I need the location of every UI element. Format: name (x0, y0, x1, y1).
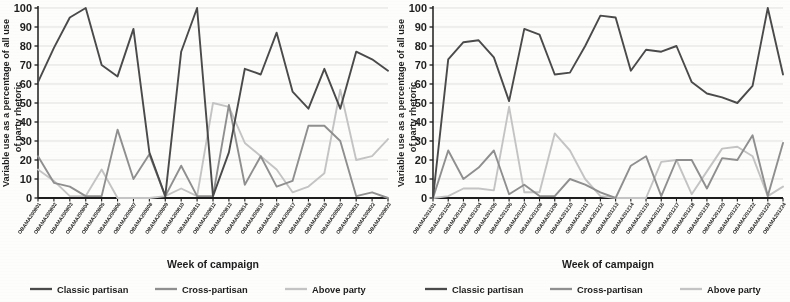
y-axis-tick-label: 0 (26, 192, 32, 204)
legend-label-classic-partisan: Classic partisan (452, 285, 524, 295)
y-axis-tick-label: 10 (20, 173, 32, 185)
chart-svg-right: 0102030405060708090100OBAMA201201OBAMA20… (395, 0, 790, 302)
legend-label-cross-partisan: Cross-partisan (577, 285, 643, 295)
legend-label-classic-partisan: Classic partisan (57, 285, 129, 295)
y-axis-tick-label: 70 (415, 59, 427, 71)
legend: Classic partisanCross-partisanAbove part… (30, 285, 367, 295)
y-axis-tick-label: 100 (14, 2, 32, 14)
y-axis-title-line-1: Variable use as a percentage of all use (1, 19, 11, 187)
y-axis-tick-label: 80 (415, 40, 427, 52)
chart-svg-left: 0102030405060708090100OBAMA200801OBAMA20… (0, 0, 395, 302)
y-axis-tick-label: 90 (20, 21, 32, 33)
y-axis-title-line-2: of party rhetoric (408, 82, 418, 152)
gridlines (38, 8, 388, 179)
y-axis-title-line-2: of party rhetoric (13, 82, 23, 152)
y-axis-tick-label: 20 (20, 154, 32, 166)
x-axis-tick-labels: OBAMA200801OBAMA200802OBAMA200803OBAMA20… (16, 201, 392, 235)
y-axis-tick-label: 90 (415, 21, 427, 33)
chart-panel-right: 0102030405060708090100OBAMA201201OBAMA20… (395, 0, 790, 302)
y-axis-tick-label: 0 (421, 192, 427, 204)
chart-panel-left: 0102030405060708090100OBAMA200801OBAMA20… (0, 0, 395, 302)
series-line-above-party (433, 107, 783, 198)
x-axis-title: Week of campaign (167, 258, 259, 270)
series-line-above-party (38, 90, 388, 198)
y-axis-tick-label: 70 (20, 59, 32, 71)
legend-label-above-party: Above party (707, 285, 762, 295)
y-axis-tick-label: 100 (409, 2, 427, 14)
y-axis-title-line-1: Variable use as a percentage of all use (396, 19, 406, 187)
x-axis-title: Week of campaign (562, 258, 654, 270)
gridlines (433, 8, 783, 179)
x-axis-tick-labels: OBAMA201201OBAMA201202OBAMA201203OBAMA20… (411, 201, 787, 235)
legend: Classic partisanCross-partisanAbove part… (425, 285, 762, 295)
legend-label-above-party: Above party (312, 285, 367, 295)
y-axis-tick-label: 10 (415, 173, 427, 185)
figure-sheet: 0102030405060708090100OBAMA200801OBAMA20… (0, 0, 790, 302)
legend-label-cross-partisan: Cross-partisan (182, 285, 248, 295)
y-axis-tick-label: 20 (415, 154, 427, 166)
y-axis-tick-label: 80 (20, 40, 32, 52)
